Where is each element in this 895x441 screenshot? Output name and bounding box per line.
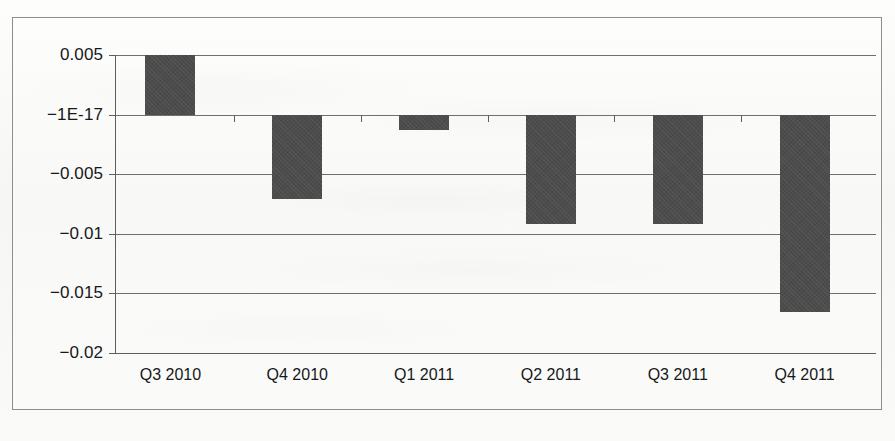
x-axis-tick-mark: [234, 115, 235, 122]
bar: [780, 115, 830, 313]
x-axis-tick-label: Q4 2011: [745, 366, 865, 384]
gridline: [115, 174, 876, 175]
bar: [653, 115, 703, 225]
y-axis-tick-label: −0.015: [13, 284, 103, 301]
x-axis-tick-label: Q1 2011: [364, 366, 484, 384]
bar: [145, 55, 195, 115]
x-axis-tick-mark: [488, 115, 489, 122]
x-axis-tick-mark: [741, 115, 742, 122]
x-axis-tick-label: Q3 2011: [618, 366, 738, 384]
gridline: [115, 115, 876, 116]
y-axis-tick-label: 0.005: [13, 46, 103, 63]
y-axis-tick-label: −0.02: [13, 344, 103, 361]
scanned-page: 0.005−1E-17−0.005−0.01−0.015−0.02Q3 2010…: [0, 0, 895, 441]
bar: [272, 115, 322, 200]
x-axis-tick-mark: [361, 115, 362, 122]
y-axis-line: [115, 55, 116, 354]
y-axis-tick-label: −0.01: [13, 225, 103, 242]
x-axis-tick-label: Q2 2011: [491, 366, 611, 384]
chart-frame: 0.005−1E-17−0.005−0.01−0.015−0.02Q3 2010…: [12, 17, 882, 410]
gridline: [115, 55, 876, 56]
x-axis-tick-label: Q4 2010: [237, 366, 357, 384]
x-axis-tick-mark: [614, 115, 615, 122]
y-axis-tick-label: −0.005: [13, 165, 103, 182]
bar: [526, 115, 576, 225]
gridline: [115, 234, 876, 235]
gridline: [115, 293, 876, 294]
x-axis-line: [115, 353, 876, 354]
bar: [399, 115, 449, 130]
x-axis-tick-label: Q3 2010: [110, 366, 230, 384]
y-axis-tick-label: −1E-17: [13, 106, 103, 123]
